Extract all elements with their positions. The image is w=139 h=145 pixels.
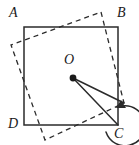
segment-O-to-C-prime <box>73 78 124 103</box>
vertex-label-C: C <box>114 127 123 141</box>
vertex-label-A: A <box>9 6 18 20</box>
segment-O-to-C <box>73 78 118 125</box>
vertex-label-B: B <box>117 6 126 20</box>
point-O-dot <box>70 75 77 82</box>
geometry-figure: A B D C O <box>0 0 139 145</box>
center-label-O: O <box>64 53 74 67</box>
figure-canvas <box>0 0 139 145</box>
vertex-label-D: D <box>8 117 18 131</box>
rotated-square-dashed <box>11 12 124 140</box>
